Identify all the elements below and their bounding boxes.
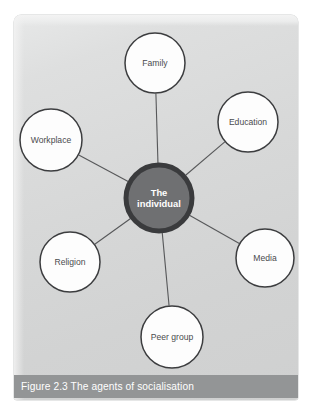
socialisation-diagram: FamilyEducationMediaPeer groupReligionWo… bbox=[0, 0, 316, 414]
spoke-line-education bbox=[186, 142, 225, 175]
node-education[interactable]: Education bbox=[218, 92, 278, 152]
node-label-family: Family bbox=[142, 58, 168, 68]
spoke-line-religion bbox=[95, 218, 131, 244]
node-peer-group[interactable]: Peer group bbox=[141, 306, 203, 368]
hub-node-individual[interactable]: Theindividual bbox=[126, 165, 192, 231]
node-label-peer-group: Peer group bbox=[151, 332, 194, 342]
node-label-religion: Religion bbox=[54, 257, 85, 267]
hub-label-line-1: The bbox=[151, 187, 168, 198]
spoke-line-family bbox=[156, 93, 158, 163]
node-label-media: Media bbox=[253, 253, 277, 263]
node-religion[interactable]: Religion bbox=[40, 232, 100, 292]
figure-caption-text: Figure 2.3 The agents of socialisation bbox=[21, 381, 194, 392]
figure-container: FamilyEducationMediaPeer groupReligionWo… bbox=[0, 0, 316, 414]
node-workplace[interactable]: Workplace bbox=[20, 109, 82, 171]
spoke-line-media bbox=[189, 215, 239, 243]
figure-caption-band: Figure 2.3 The agents of socialisation bbox=[14, 375, 298, 398]
hub-group: Theindividual bbox=[126, 165, 192, 231]
spoke-line-workplace bbox=[79, 155, 128, 182]
spoke-line-peer-group bbox=[162, 233, 169, 306]
node-family[interactable]: Family bbox=[125, 33, 185, 93]
node-media[interactable]: Media bbox=[236, 229, 294, 287]
node-label-education: Education bbox=[229, 117, 267, 127]
hub-label-line-2: individual bbox=[137, 198, 181, 209]
node-label-workplace: Workplace bbox=[31, 135, 72, 145]
